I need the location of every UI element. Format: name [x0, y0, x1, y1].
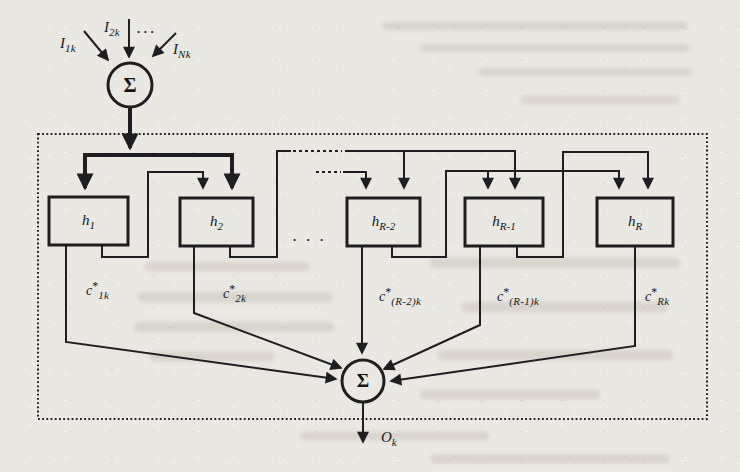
output-label-ok: Ok — [381, 430, 397, 448]
block-label-hr1: hR-1 — [465, 198, 543, 246]
block-label-hr: hR — [597, 198, 673, 246]
weight-label-c2k: c*2k — [223, 283, 246, 304]
block-label-hr2: hR-2 — [347, 198, 420, 246]
block-label-h2: h2 — [180, 198, 253, 246]
block-diagram-figure: I1k I2k ... INk Σ h1 h2 hR-2 hR-1 hR . .… — [0, 0, 740, 472]
weight-label-cr1k: c*(R-1)k — [497, 286, 539, 307]
bottom-sum-symbol: Σ — [342, 360, 384, 402]
weight-label-cr2k: c*(R-2)k — [379, 286, 421, 307]
top-sum-symbol: Σ — [108, 63, 152, 107]
output-line-h2 — [194, 246, 341, 368]
output-line-h1 — [66, 245, 336, 379]
output-line-hr1 — [384, 246, 480, 369]
input-label-i1k: I1k — [60, 36, 76, 54]
input-label-i2k: I2k — [104, 20, 120, 38]
block-label-h1: h1 — [49, 197, 128, 245]
mid-ellipsis: . . . — [293, 230, 327, 243]
weight-label-crk: c*Rk — [645, 286, 669, 307]
high-rail-to-hr1 — [345, 151, 515, 188]
low-rail-into-hr2 — [343, 172, 366, 188]
weight-label-c1k: c*1k — [86, 280, 109, 301]
input-label-ink: INk — [173, 42, 191, 60]
input-ellipsis: ... — [137, 22, 157, 35]
output-line-hr — [391, 246, 635, 381]
